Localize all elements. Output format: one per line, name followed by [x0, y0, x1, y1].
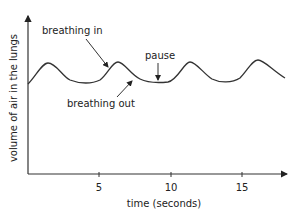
y-axis-label: volume of air in the lungs — [8, 34, 19, 162]
breathing-chart: 5 10 15 time (seconds) volume of air in … — [0, 0, 293, 217]
annotation-pause: pause — [145, 50, 175, 61]
x-tick-label-10: 10 — [165, 182, 178, 193]
annotation-breathing-out: breathing out — [67, 98, 135, 109]
x-axis-label: time (seconds) — [127, 198, 202, 209]
x-tick-label-15: 15 — [236, 182, 249, 193]
x-tick-label-5: 5 — [96, 182, 102, 193]
breathing-curve — [28, 60, 285, 84]
arrow-breathing-out — [117, 81, 132, 97]
annotation-breathing-in: breathing in — [42, 25, 103, 36]
arrow-breathing-in — [86, 39, 108, 67]
